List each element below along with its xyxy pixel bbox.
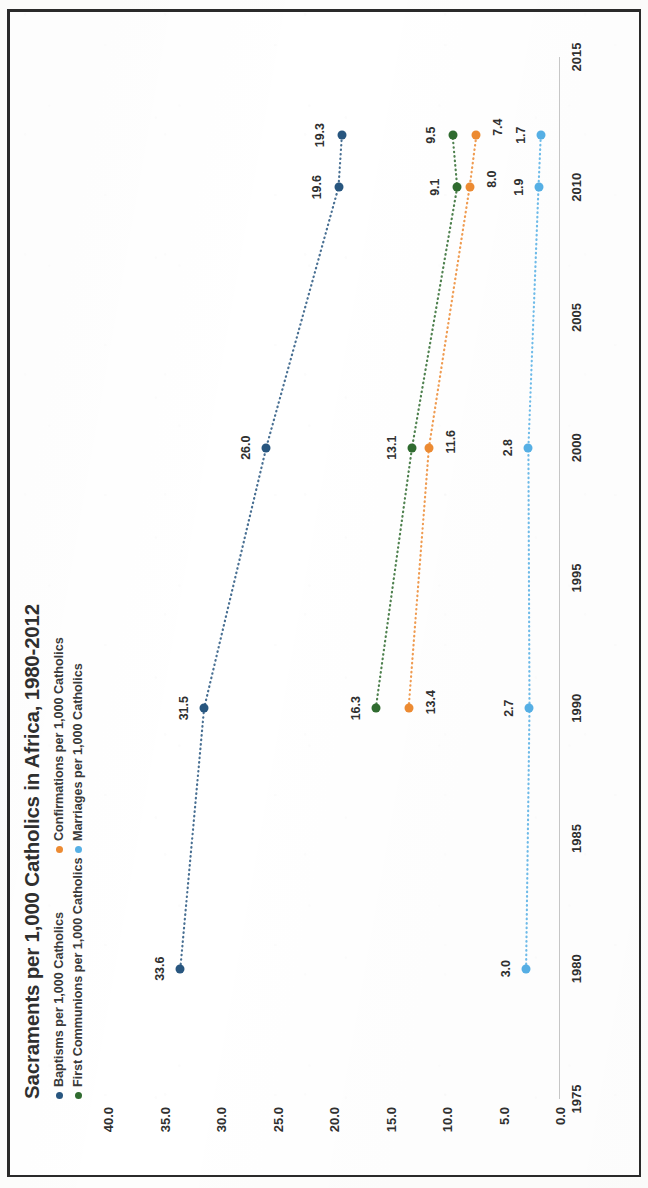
legend-marker-icon: [56, 1092, 63, 1099]
data-point[interactable]: [334, 183, 343, 192]
plot-area: 0.05.010.015.020.025.030.035.040.0 19751…: [108, 57, 560, 1099]
data-point[interactable]: [404, 704, 413, 713]
x-tick-label: 1995: [569, 564, 584, 593]
data-point[interactable]: [262, 443, 271, 452]
data-point[interactable]: [448, 131, 457, 140]
data-point-label: 1.7: [514, 127, 528, 144]
data-point[interactable]: [524, 443, 533, 452]
y-tick-label: 10.0: [440, 1107, 455, 1132]
series-points: 33.631.526.019.619.316.313.19.19.513.411…: [108, 57, 560, 1099]
legend-marker-icon: [75, 1092, 82, 1099]
x-tick-label: 2015: [569, 43, 584, 72]
data-point[interactable]: [371, 704, 380, 713]
data-point-label: 31.5: [177, 696, 191, 720]
chart-legend: Baptisms per 1,000 Catholics First Commu…: [52, 119, 94, 1099]
data-point[interactable]: [453, 183, 462, 192]
data-point-label: 33.6: [153, 957, 167, 981]
data-point-label: 13.4: [424, 690, 438, 714]
data-point-label: 2.8: [501, 439, 515, 456]
x-tick-label: 1990: [569, 694, 584, 723]
data-point-label: 26.0: [239, 436, 253, 460]
data-point-label: 3.0: [499, 960, 513, 977]
legend-label: Baptisms per 1,000 Catholics: [52, 912, 66, 1087]
y-tick-label: 5.0: [496, 1107, 511, 1125]
legend-item-first-communions[interactable]: First Communions per 1,000 Catholics: [71, 857, 85, 1099]
legend-item-marriages[interactable]: Marriages per 1,000 Catholics: [71, 663, 85, 853]
legend-item-confirmations[interactable]: Confirmations per 1,000 Catholics: [52, 637, 66, 853]
data-point-label: 19.3: [313, 123, 327, 147]
data-point-label: 19.6: [310, 175, 324, 199]
data-point-label: 2.7: [502, 700, 516, 717]
x-tick-label: 1985: [569, 824, 584, 853]
x-tick-label: 2005: [569, 303, 584, 332]
y-tick-label: 15.0: [383, 1107, 398, 1132]
y-tick-label: 25.0: [270, 1107, 285, 1132]
y-tick-label: 35.0: [157, 1107, 172, 1132]
data-point-label: 1.9: [512, 179, 526, 196]
y-tick-label: 30.0: [214, 1107, 229, 1132]
scanned-page: Sacraments per 1,000 Catholics in Africa…: [0, 0, 648, 1188]
legend-item-baptisms[interactable]: Baptisms per 1,000 Catholics: [52, 912, 66, 1099]
x-tick-label: 2000: [569, 433, 584, 462]
chart: Sacraments per 1,000 Catholics in Africa…: [12, 13, 636, 1173]
x-tick-label: 1975: [569, 1085, 584, 1114]
x-tick-label: 2010: [569, 173, 584, 202]
legend-label: First Communions per 1,000 Catholics: [71, 857, 85, 1087]
legend-label: Marriages per 1,000 Catholics: [71, 663, 85, 841]
y-tick-label: 40.0: [101, 1107, 116, 1132]
data-point-label: 9.1: [428, 179, 442, 196]
data-point-label: 7.4: [491, 119, 505, 136]
data-point-label: 13.1: [385, 436, 399, 460]
data-point-label: 8.0: [485, 171, 499, 188]
data-point[interactable]: [472, 131, 481, 140]
legend-label: Confirmations per 1,000 Catholics: [52, 637, 66, 841]
data-point[interactable]: [407, 443, 416, 452]
y-tick-label: 0.0: [553, 1107, 568, 1125]
data-point-label: 16.3: [349, 696, 363, 720]
data-point[interactable]: [522, 964, 531, 973]
data-point-label: 11.6: [444, 430, 458, 453]
rotated-chart-container: Sacraments per 1,000 Catholics in Africa…: [12, 13, 636, 1173]
data-point[interactable]: [200, 704, 209, 713]
data-point[interactable]: [525, 704, 534, 713]
data-point-label: 9.5: [424, 127, 438, 144]
data-point[interactable]: [465, 183, 474, 192]
data-point[interactable]: [424, 443, 433, 452]
page-title: Sacraments per 1,000 Catholics in Africa…: [20, 604, 44, 1099]
legend-marker-icon: [56, 846, 63, 853]
data-point[interactable]: [176, 964, 185, 973]
data-point[interactable]: [536, 131, 545, 140]
y-tick-label: 20.0: [327, 1107, 342, 1132]
x-tick-label: 1980: [569, 954, 584, 983]
data-point[interactable]: [337, 131, 346, 140]
legend-marker-icon: [75, 846, 82, 853]
data-point[interactable]: [534, 183, 543, 192]
